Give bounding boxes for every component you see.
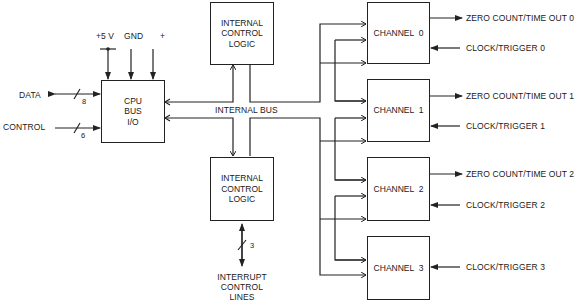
power-5v-label: +5 V	[96, 31, 114, 41]
power-plus-label: +	[160, 31, 165, 41]
zero-count-out-0: ZERO COUNT/TIME OUT 0	[466, 13, 574, 23]
channel-0-block: CHANNEL 0	[367, 2, 430, 64]
channel-label: CHANNEL 1	[374, 105, 424, 116]
channel-label: CHANNEL 2	[374, 184, 424, 195]
channel-label: CHANNEL 3	[374, 263, 424, 274]
internal-control-logic-bottom: INTERNALCONTROLLOGIC	[210, 157, 274, 221]
zero-count-out-1: ZERO COUNT/TIME OUT 1	[466, 91, 574, 101]
clock-trigger-2: CLOCK/TRIGGER 2	[466, 200, 545, 210]
channel-1-block: CHANNEL 1	[367, 79, 430, 142]
block-label: BUS	[124, 106, 142, 117]
block-label: CPU	[124, 96, 142, 107]
interrupt-width-label: 3	[250, 241, 254, 251]
internal-control-logic-top: INTERNALCONTROLLOGIC	[210, 2, 274, 65]
block-label: INTERNAL	[221, 173, 263, 184]
block-label: LOGIC	[221, 39, 263, 50]
cpu-bus-io-block: CPUBUSI/O	[101, 80, 165, 143]
zero-count-out-2: ZERO COUNT/TIME OUT 2	[466, 169, 574, 179]
channel-label: CHANNEL 0	[374, 28, 424, 39]
clock-trigger-1: CLOCK/TRIGGER 1	[466, 121, 545, 131]
control-width-label: 6	[81, 131, 85, 141]
data-label: DATA	[19, 90, 41, 100]
clock-trigger-3: CLOCK/TRIGGER 3	[466, 262, 545, 272]
block-label: I/O	[124, 117, 142, 128]
interrupt-label: INTERRUPTCONTROLLINES	[212, 272, 272, 302]
data-width-label: 8	[82, 97, 86, 107]
internal-bus-label: INTERNAL BUS	[215, 105, 278, 115]
power-gnd-label: GND	[124, 31, 143, 41]
block-label: INTERNAL	[221, 18, 263, 29]
block-label: CONTROL	[221, 28, 263, 39]
channel-2-block: CHANNEL 2	[367, 157, 430, 221]
block-label: LOGIC	[221, 194, 263, 205]
clock-trigger-0: CLOCK/TRIGGER 0	[466, 43, 545, 53]
control-label: CONTROL	[3, 122, 45, 132]
channel-3-block: CHANNEL 3	[367, 236, 430, 300]
block-label: CONTROL	[221, 184, 263, 195]
